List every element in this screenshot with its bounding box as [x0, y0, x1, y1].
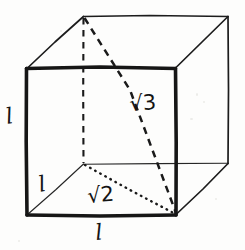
cube-diagram-figure: l l l √2 √3 [0, 0, 245, 250]
edge-connector-top-left [28, 17, 84, 69]
edge-front-left [26, 69, 27, 216]
edge-connector-bottom-right [176, 164, 228, 215]
label-space-diagonal-sqrt3: √3 [129, 90, 157, 116]
edge-connector-top-right [176, 17, 229, 69]
edge-front-top [27, 67, 176, 69]
label-edge-left: l [4, 103, 15, 129]
edge-front-right [176, 69, 177, 216]
label-face-diagonal-sqrt2: √2 [86, 182, 115, 208]
cube-diagram-canvas: l l l √2 √3 [0, 0, 245, 250]
edge-back-right [228, 17, 229, 164]
edge-back-top [84, 16, 229, 17]
label-edge-bottom-diagonal: l [36, 171, 48, 197]
cube-back-edges [28, 16, 229, 215]
edge-back-bottom [84, 163, 229, 164]
label-edge-bottom-front: l [94, 219, 103, 245]
edge-front-bottom [27, 215, 176, 216]
